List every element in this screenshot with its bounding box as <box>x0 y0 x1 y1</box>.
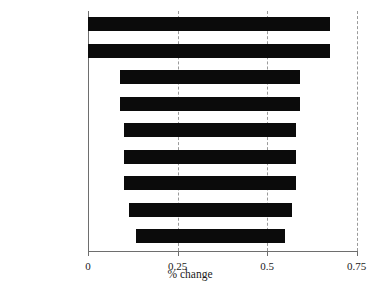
bar-produc-effic-y <box>136 229 285 243</box>
tick-mark-0.75 <box>357 251 358 256</box>
tick-mark-0 <box>88 251 89 256</box>
bar-invest-costs <box>88 17 330 31</box>
x-axis-title: % change <box>0 268 380 280</box>
bar-dung <box>120 70 299 84</box>
x-axis-line <box>88 251 357 252</box>
tick-mark-0.25 <box>178 251 179 256</box>
bar-reduc-cleanup <box>129 203 292 217</box>
plot-area: 0 0.25 0.5 0.75 <box>88 11 357 251</box>
bar-desulferizer <box>120 97 299 111</box>
bar-byproduct <box>124 123 296 137</box>
gridline-0.75 <box>357 11 359 251</box>
bar-biogas-price <box>88 44 330 58</box>
tick-mark-0.5 <box>267 251 268 256</box>
bar-total-waste <box>124 176 296 190</box>
bar-sludge-proces-g <box>124 150 296 164</box>
tornado-chart: Invest. costs Biogas price % dung Desulf… <box>0 0 380 292</box>
